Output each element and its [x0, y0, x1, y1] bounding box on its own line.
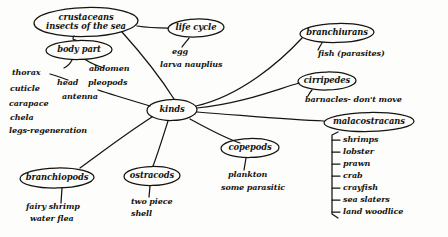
- leaf-chela: chela: [10, 113, 34, 122]
- node-kinds: kinds: [159, 105, 184, 114]
- leaf-thorax: thorax: [12, 68, 40, 77]
- leaf-shrimps: shrimps: [343, 135, 378, 144]
- leaf-cuticle: cuticle: [10, 84, 40, 93]
- leaf-pleopods: pleopods: [88, 78, 127, 87]
- node-malacostracans: malacostracans: [333, 117, 405, 126]
- leaf-fish-parasites: fish (parasites): [318, 49, 385, 58]
- leaf-antenna: antenna: [62, 92, 98, 101]
- leaf-crab: crab: [343, 171, 362, 180]
- bracket-malacostracans: [332, 132, 338, 218]
- node-branchiurans: branchiurans: [306, 28, 368, 37]
- leaf-carapace: carapace: [9, 99, 48, 108]
- leaf-two-piece: two piece: [131, 197, 173, 206]
- node-branchiopods: branchiopods: [26, 173, 89, 182]
- edge-kinds-to-branchiurans: [196, 38, 302, 106]
- node-cirripedes: cirripedes: [304, 76, 350, 85]
- edge-root-to-life-cycle: [137, 26, 168, 28]
- leaf-some-parasitic: some parasitic: [221, 183, 285, 192]
- leaf-plankton: plankton: [228, 170, 267, 179]
- node-root: crustaceansinsects of the sea: [46, 13, 126, 32]
- leaf-land-woodlice: land woodlice: [343, 207, 403, 216]
- node-ostracods: ostracods: [130, 171, 174, 180]
- leaf-abdomen: abdomen: [89, 64, 129, 73]
- leaf-head: head: [57, 78, 78, 87]
- leaf-lobster: lobster: [343, 147, 374, 156]
- leaf-water-flea: water flea: [30, 214, 74, 223]
- leaf-larva-nauplius: larva nauplius: [160, 60, 222, 69]
- edge-bodypart-stem: [64, 60, 72, 68]
- leaf-crayfish: crayfish: [343, 183, 378, 192]
- leaf-shell: shell: [131, 209, 152, 218]
- edge-kinds-to-malacostracans: [197, 112, 324, 121]
- edge-kinds-to-branchiopods: [80, 117, 152, 168]
- edge-kinds-to-ostracods: [153, 121, 168, 166]
- edge-kinds-to-copepods: [190, 119, 240, 143]
- concept-map-canvas: crustaceansinsects of the sea body part …: [0, 0, 448, 237]
- leaf-fairy-shrimp: fairy shrimp: [26, 202, 80, 211]
- node-root-line2: insects of the sea: [46, 21, 126, 31]
- leaf-egg: egg: [172, 47, 188, 56]
- leaf-prawn: prawn: [343, 159, 370, 168]
- edge-kinds-to-bodypart-group: [98, 90, 150, 106]
- node-body-part: body part: [57, 45, 101, 54]
- leaf-legs-regeneration: legs-regeneration: [9, 126, 87, 135]
- node-life-cycle: life cycle: [176, 23, 217, 32]
- leaf-barnacles-dont-move: barnacles- don't move: [305, 95, 402, 104]
- leaf-sea-slaters: sea slaters: [343, 195, 390, 204]
- node-copepods: copepods: [228, 143, 271, 152]
- edge-kinds-to-cirripedes: [197, 83, 299, 108]
